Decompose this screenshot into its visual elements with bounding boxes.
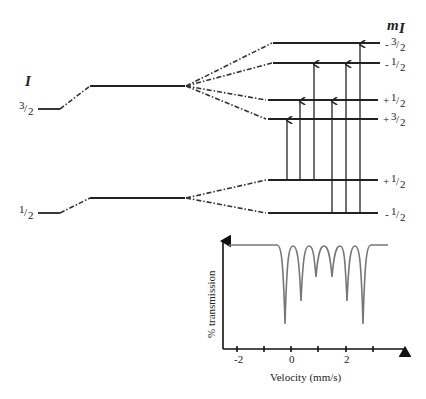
- ground-splitting-connectors: [186, 180, 266, 213]
- mi-header: m I: [387, 17, 406, 36]
- mi-label-minus-3-2: - 3 / 2: [385, 35, 406, 53]
- spin-1-2-label: 1 / 2: [19, 203, 34, 221]
- svg-text:m: m: [387, 17, 399, 33]
- svg-text:+: +: [383, 175, 389, 187]
- mi-label-plus-3-2: + 3 / 2: [383, 110, 406, 128]
- ground-shift-connector: [60, 198, 90, 213]
- excited-shift-connector: [60, 86, 90, 109]
- mossbauer-diagram: I 3 / 2 1 / 2 m I: [0, 0, 426, 399]
- mi-label-minus-1-2-ground: - 1 / 2: [385, 205, 406, 223]
- svg-text:2: 2: [400, 211, 406, 223]
- svg-text:-: -: [385, 208, 389, 220]
- spin-3-2-label: 3 / 2: [19, 99, 34, 117]
- svg-text:2: 2: [400, 41, 406, 53]
- mi-label-minus-1-2: - 1 / 2: [385, 55, 406, 73]
- x-axis-label: Velocity (mm/s): [270, 371, 342, 384]
- x-tick-label-neg2: -2: [234, 353, 243, 365]
- svg-text:2: 2: [400, 116, 406, 128]
- mi-labels: - 3 / 2 - 1 / 2 + 1 / 2 + 3 / 2 + 1 / 2: [383, 35, 406, 223]
- x-tick-label-0: 0: [289, 353, 295, 365]
- y-axis-label: % transmission: [205, 270, 217, 338]
- nuclear-spin-label: I: [24, 73, 32, 89]
- svg-text:+: +: [383, 113, 389, 125]
- svg-text:-: -: [385, 58, 389, 70]
- spectrum-curve: [229, 245, 388, 324]
- svg-text:2: 2: [28, 105, 34, 117]
- x-tick-label-2: 2: [344, 353, 350, 365]
- svg-text:2: 2: [400, 178, 406, 190]
- svg-text:2: 2: [400, 61, 406, 73]
- transition-arrows: [287, 44, 360, 213]
- svg-text:-: -: [385, 38, 389, 50]
- split-levels: [268, 43, 380, 213]
- svg-text:2: 2: [400, 97, 406, 109]
- mi-label-plus-1-2-excited: + 1 / 2: [383, 91, 406, 109]
- mi-label-plus-1-2-ground: + 1 / 2: [383, 172, 406, 190]
- excited-splitting-connectors: [186, 43, 272, 119]
- mossbauer-spectrum: -2 0 2 Velocity (mm/s) % transmission: [205, 241, 405, 384]
- svg-text:+: +: [383, 94, 389, 106]
- svg-text:2: 2: [28, 209, 34, 221]
- svg-text:I: I: [398, 20, 406, 36]
